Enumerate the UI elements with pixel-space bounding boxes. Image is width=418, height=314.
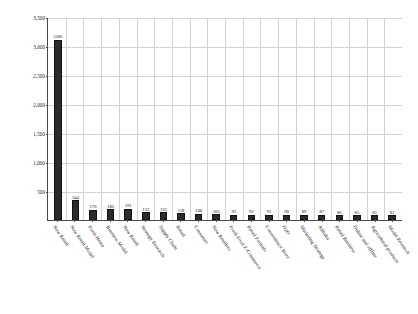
- bar-slot: 118: [172, 18, 190, 220]
- x-label-slot: Alibaba: [313, 222, 331, 308]
- x-axis-tick-mark: [216, 219, 217, 222]
- y-axis-tick-label: 500: [1, 189, 48, 195]
- x-axis-labels: New RetailNew Retail ModelFresh HemaBusi…: [47, 222, 402, 308]
- x-label-slot: Model Research: [383, 222, 401, 308]
- x-label-slot: Online and offline: [348, 222, 366, 308]
- bar-value-label: 85: [355, 210, 360, 215]
- x-label-slot: Strategy Research: [136, 222, 154, 308]
- bar-value-label: 132: [160, 207, 167, 212]
- bar-slot: 85: [366, 18, 384, 220]
- bar-slot: 85: [348, 18, 366, 220]
- x-label-slot: Retail: [172, 222, 190, 308]
- x-axis-tick-mark: [233, 219, 234, 222]
- bar-value-label: 92: [249, 209, 254, 214]
- bar-series: 3106344176182191132132118108103939291908…: [48, 18, 402, 220]
- x-axis-tick-mark: [127, 219, 128, 222]
- x-axis-tick-mark: [163, 219, 164, 222]
- bar-value-label: 81: [390, 210, 395, 215]
- x-label-slot: New Retail Model: [66, 222, 84, 308]
- bar-value-label: 182: [107, 204, 114, 209]
- x-label-slot: Business Model: [101, 222, 119, 308]
- x-axis-tick-label: Alibaba: [317, 224, 331, 241]
- x-axis-tick-mark: [339, 219, 340, 222]
- bar: [72, 200, 80, 220]
- x-label-slot: Convenience Store: [260, 222, 278, 308]
- x-axis-tick-label: O2O: [281, 224, 292, 236]
- bar: [54, 40, 62, 220]
- y-axis-tick-label: 2,500: [1, 73, 48, 79]
- x-label-slot: Retail Formats: [242, 222, 260, 308]
- x-axis-tick-mark: [286, 219, 287, 222]
- x-axis-tick-label: Model Research: [387, 224, 411, 255]
- y-axis-tick-label: 2,000: [1, 102, 48, 108]
- x-label-slot: New Retailers: [207, 222, 225, 308]
- x-label-slot: Supply Chain: [154, 222, 172, 308]
- bar-slot: 3106: [49, 18, 67, 220]
- x-axis-tick-mark: [145, 219, 146, 222]
- bar-chart: Number of Literature 5001,0001,5002,0002…: [0, 0, 418, 314]
- x-axis-tick-mark: [304, 219, 305, 222]
- x-label-slot: New Retail: [48, 222, 66, 308]
- y-axis-tick-label: 3,000: [1, 44, 48, 50]
- y-axis-tick-label: 1,000: [1, 160, 48, 166]
- x-axis-tick-mark: [198, 219, 199, 222]
- bar-slot: 108: [190, 18, 208, 220]
- bar-slot: 182: [102, 18, 120, 220]
- bar-slot: 132: [155, 18, 173, 220]
- x-axis-tick-mark: [57, 219, 58, 222]
- x-label-slot: New Retail: [119, 222, 137, 308]
- bar-value-label: 191: [125, 203, 132, 208]
- x-axis-tick-mark: [110, 219, 111, 222]
- bar-slot: 91: [260, 18, 278, 220]
- bar-value-label: 90: [284, 209, 289, 214]
- x-axis-tick-mark: [375, 219, 376, 222]
- bar-value-label: 118: [178, 208, 185, 213]
- x-label-slot: Retail Business: [331, 222, 349, 308]
- x-axis-tick-mark: [269, 219, 270, 222]
- x-label-slot: O2O: [278, 222, 296, 308]
- bar-value-label: 132: [142, 207, 149, 212]
- x-label-slot: Agricultural products: [366, 222, 384, 308]
- x-label-slot: Fresh Food E-Commerce: [225, 222, 243, 308]
- bar-slot: 89: [295, 18, 313, 220]
- bar-slot: 176: [84, 18, 102, 220]
- bar-slot: 191: [119, 18, 137, 220]
- bar-value-label: 86: [337, 210, 342, 215]
- x-axis-tick-mark: [357, 219, 358, 222]
- bar-slot: 132: [137, 18, 155, 220]
- bar-slot: 90: [278, 18, 296, 220]
- x-axis-tick-mark: [180, 219, 181, 222]
- bar-value-label: 103: [213, 209, 220, 214]
- bar-slot: 92: [243, 18, 261, 220]
- bar-value-label: 87: [319, 209, 324, 214]
- bar-slot: 81: [383, 18, 401, 220]
- bar-value-label: 85: [372, 210, 377, 215]
- bar-slot: 344: [67, 18, 85, 220]
- bar-slot: 93: [225, 18, 243, 220]
- bar-value-label: 89: [302, 209, 307, 214]
- bar-slot: 86: [331, 18, 349, 220]
- y-axis-tick-label: 3,500: [1, 15, 48, 21]
- x-axis-tick-mark: [322, 219, 323, 222]
- bar-value-label: 3106: [53, 34, 62, 39]
- bar-value-label: 91: [267, 209, 272, 214]
- bar-slot: 87: [313, 18, 331, 220]
- x-axis-tick-label: Retail: [176, 224, 188, 238]
- x-axis-tick-mark: [251, 219, 252, 222]
- x-label-slot: Fresh Hema: [83, 222, 101, 308]
- x-label-slot: Consumer: [189, 222, 207, 308]
- x-label-slot: Marketing Strategy: [295, 222, 313, 308]
- bar-value-label: 93: [231, 209, 236, 214]
- bar-value-label: 108: [195, 208, 202, 213]
- bar-slot: 103: [207, 18, 225, 220]
- x-axis-tick-mark: [392, 219, 393, 222]
- x-axis-tick-mark: [74, 219, 75, 222]
- bar-value-label: 344: [72, 195, 79, 200]
- x-axis-tick-mark: [92, 219, 93, 222]
- plot-area: 5001,0001,5002,0002,5003,0003,500 310634…: [47, 18, 402, 221]
- y-axis-tick-label: 1,500: [1, 131, 48, 137]
- bar-value-label: 176: [90, 204, 97, 209]
